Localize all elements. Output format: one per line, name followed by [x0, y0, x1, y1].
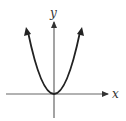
- left-arrowhead-icon: [24, 27, 31, 36]
- parabola-diagram: y x: [0, 0, 126, 121]
- y-axis-label: y: [49, 6, 57, 20]
- right-arrowhead-icon: [77, 27, 84, 36]
- x-axis-label: x: [112, 87, 119, 101]
